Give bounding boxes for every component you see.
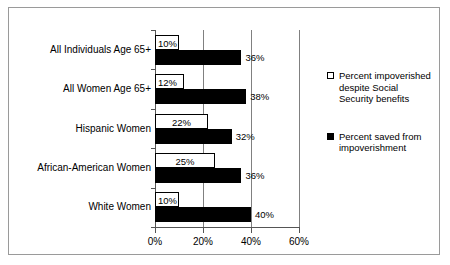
bar-value-label: 32% bbox=[232, 129, 255, 144]
value-tick-label: 40% bbox=[231, 236, 271, 247]
category-label: All Women Age 65+ bbox=[17, 83, 151, 95]
bar-group: 25%36% bbox=[155, 153, 299, 183]
bar-dark[interactable]: 40% bbox=[155, 207, 251, 222]
legend-entry-label: Percent saved from impoverishment bbox=[339, 131, 421, 154]
value-tick-60 bbox=[299, 228, 300, 233]
bar-light[interactable]: 25% bbox=[155, 153, 215, 168]
category-tick bbox=[151, 148, 156, 149]
category-axis-line bbox=[155, 227, 300, 228]
bar-light[interactable]: 12% bbox=[155, 74, 184, 89]
chart-frame: All Individuals Age 65+All Women Age 65+… bbox=[8, 7, 440, 255]
bar-dark[interactable]: 36% bbox=[155, 50, 241, 65]
bar-group: 10%40% bbox=[155, 192, 299, 222]
bar-light[interactable]: 10% bbox=[155, 192, 179, 207]
bar-value-label: 36% bbox=[241, 168, 264, 183]
bar-value-label: 38% bbox=[246, 89, 269, 104]
category-tick bbox=[151, 227, 156, 228]
category-label: All Individuals Age 65+ bbox=[17, 44, 151, 56]
bar-group: 10%36% bbox=[155, 35, 299, 65]
bar-value-label: 36% bbox=[241, 50, 264, 65]
value-tick-label: 0% bbox=[135, 236, 175, 247]
bar-value-label: 25% bbox=[156, 154, 214, 169]
category-label: Hispanic Women bbox=[17, 123, 151, 135]
gridline-60 bbox=[299, 30, 300, 227]
bar-group: 22%32% bbox=[155, 114, 299, 144]
plot-area: 10%36%12%38%22%32%25%36%10%40% bbox=[155, 30, 299, 227]
category-tick bbox=[151, 30, 156, 31]
bar-light[interactable]: 22% bbox=[155, 114, 208, 129]
bar-group: 12%38% bbox=[155, 74, 299, 104]
category-axis-labels: All Individuals Age 65+All Women Age 65+… bbox=[13, 30, 151, 227]
bar-value-label: 10% bbox=[156, 193, 177, 208]
value-tick-20 bbox=[203, 228, 204, 233]
category-tick bbox=[151, 109, 156, 110]
bar-value-label: 12% bbox=[156, 75, 177, 90]
bar-dark[interactable]: 38% bbox=[155, 89, 246, 104]
chart-legend: Percent impoverished despite Social Secu… bbox=[327, 70, 435, 180]
bar-dark[interactable]: 36% bbox=[155, 168, 241, 183]
legend-entry[interactable]: Percent impoverished despite Social Secu… bbox=[327, 70, 435, 105]
value-tick-label: 20% bbox=[183, 236, 223, 247]
value-tick-label: 60% bbox=[279, 236, 319, 247]
bar-value-label: 10% bbox=[156, 36, 177, 51]
legend-entry[interactable]: Percent saved from impoverishment bbox=[327, 131, 435, 154]
category-tick bbox=[151, 188, 156, 189]
dark-square-swatch-icon bbox=[327, 133, 334, 140]
category-tick bbox=[151, 69, 156, 70]
bar-value-label: 40% bbox=[251, 207, 274, 222]
bar-light[interactable]: 10% bbox=[155, 35, 179, 50]
category-label: African-American Women bbox=[17, 162, 151, 174]
bar-dark[interactable]: 32% bbox=[155, 129, 232, 144]
value-tick-40 bbox=[251, 228, 252, 233]
legend-entry-label: Percent impoverished despite Social Secu… bbox=[339, 70, 431, 104]
value-tick-0 bbox=[155, 228, 156, 233]
light-square-swatch-icon bbox=[327, 72, 334, 79]
category-label: White Women bbox=[17, 201, 151, 213]
bar-value-label: 22% bbox=[156, 115, 207, 130]
